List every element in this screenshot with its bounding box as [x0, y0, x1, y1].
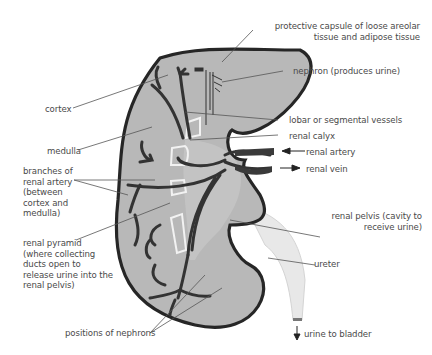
label-branches-renal-artery: branches of renal artery (between cortex…: [23, 166, 73, 219]
label-capsule-line2: tissue and adipose tissue: [250, 32, 420, 43]
label-capsule: protective capsule of loose areolar tiss…: [250, 21, 420, 42]
label-branches-line5: medulla): [23, 208, 73, 219]
label-branches-line2: renal artery: [23, 177, 73, 188]
label-renal-pelvis-line2: receive urine): [300, 222, 422, 233]
label-urine-to-bladder: urine to bladder: [304, 329, 371, 340]
label-renal-pyramid-line1: renal pyramid: [23, 238, 113, 249]
label-renal-pelvis-line1: renal pelvis (cavity to: [300, 211, 422, 222]
label-renal-pyramid-line4: release urine into the: [23, 270, 113, 281]
label-ureter: ureter: [314, 259, 340, 270]
label-renal-pelvis: renal pelvis (cavity to receive urine): [300, 211, 422, 232]
renal-artery-tube: [235, 148, 274, 156]
label-nephron: nephron (produces urine): [293, 66, 400, 77]
label-branches-line1: branches of: [23, 166, 73, 177]
ureter-tip: [293, 318, 302, 321]
label-branches-line4: cortex and: [23, 198, 73, 209]
label-branches-line3: (between: [23, 187, 73, 198]
label-renal-calyx: renal calyx: [289, 131, 335, 142]
label-renal-pyramid-line2: (where collecting: [23, 249, 113, 260]
label-positions-nephrons: positions of nephrons: [65, 328, 155, 339]
label-renal-pyramid-line5: renal pelvis): [23, 280, 113, 291]
label-capsule-line1: protective capsule of loose areolar: [250, 21, 420, 32]
label-renal-artery: renal artery: [306, 147, 355, 158]
label-medulla: medulla: [47, 146, 81, 157]
label-renal-pyramid-line3: ducts open to: [23, 259, 113, 270]
label-renal-pyramid: renal pyramid (where collecting ducts op…: [23, 238, 113, 291]
label-renal-vein: renal vein: [306, 164, 348, 175]
label-cortex: cortex: [45, 104, 72, 115]
label-lobar-vessels: lobar or segmental vessels: [289, 115, 402, 126]
